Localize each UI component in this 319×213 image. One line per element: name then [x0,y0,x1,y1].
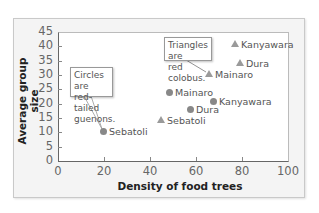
triangle-marker-kanyawara [231,40,239,47]
triangle-marker-sebatoli [157,116,165,123]
point-label: Sebatoli [167,116,206,126]
point-label: Dura [246,59,269,69]
circle-marker-dura [187,106,194,113]
circle-marker-kanyawara [210,98,217,105]
point-label: Mainaro [215,70,253,80]
point-label: Mainaro [175,88,213,98]
triangle-marker-mainaro [205,70,213,77]
circle-marker-mainaro [166,89,173,96]
callout-circles: Circles are red-tailed guenons. [70,67,113,97]
point-label: Sebatoli [109,127,148,137]
callout-line: Triangles are [168,40,208,62]
callout-line: guenons. [74,114,109,125]
triangle-marker-dura [236,59,244,66]
callout-line: Circles are [74,70,109,92]
callout-line: red-tailed [74,92,109,114]
point-label: Kanyawara [219,97,272,107]
point-label: Kanyawara [241,40,294,50]
point-label: Dura [196,105,219,115]
circle-marker-sebatoli [100,128,107,135]
callout-triangles: Triangles are red colobus. [164,37,212,61]
callout-line: red colobus. [168,62,208,84]
